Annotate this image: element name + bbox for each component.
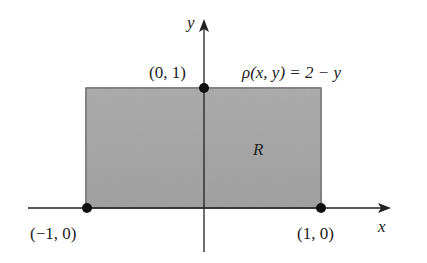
point-label-0-1: (0, 1) bbox=[149, 63, 186, 82]
point-label-neg1-0: (−1, 0) bbox=[30, 224, 76, 243]
density-label: ρ(x, y) = 2 − y bbox=[241, 63, 342, 82]
point-neg1-0 bbox=[82, 203, 92, 213]
x-axis-label: x bbox=[377, 217, 386, 236]
point-0-1 bbox=[199, 83, 209, 93]
y-axis-label: y bbox=[185, 13, 195, 32]
region-label: R bbox=[252, 140, 264, 159]
region-diagram: y x (0, 1) (−1, 0) (1, 0) ρ(x, y) = 2 − … bbox=[0, 0, 427, 263]
point-label-1-0: (1, 0) bbox=[297, 224, 334, 243]
point-1-0 bbox=[316, 203, 326, 213]
